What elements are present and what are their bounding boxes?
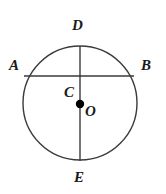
point-label-o: O [85, 104, 96, 119]
point-label-b: B [141, 58, 151, 73]
point-label-c: C [64, 85, 74, 100]
point-label-d: D [72, 18, 83, 33]
geometry-figure: D A B C O E [0, 0, 166, 194]
point-label-e: E [74, 170, 84, 185]
circle-diagram-canvas [0, 0, 166, 194]
point-label-a: A [9, 58, 19, 73]
center-point-dot [76, 100, 84, 108]
